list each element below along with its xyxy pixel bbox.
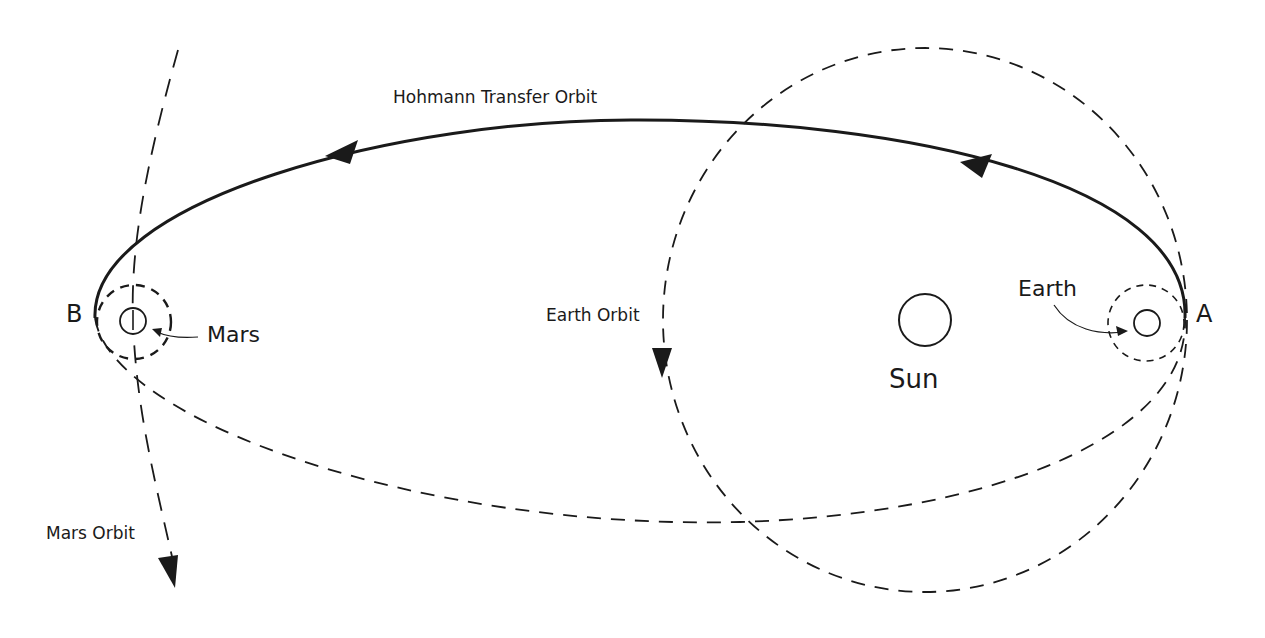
earth-pointer-arrow-icon xyxy=(1116,326,1128,336)
transfer-arrow-icon xyxy=(325,140,358,164)
earth-orbit-label: Earth Orbit xyxy=(546,305,640,325)
sun-icon xyxy=(899,294,951,346)
earth-icon xyxy=(1134,310,1160,336)
earth-pointer-arrow xyxy=(1054,305,1124,333)
earth-label: Earth xyxy=(1018,276,1077,301)
mars-pointer-arrow xyxy=(157,332,198,337)
transfer-orbit-lower-path xyxy=(95,318,1185,522)
mars-orbit-label: Mars Orbit xyxy=(46,523,135,543)
earth-orbit-arrow-icon xyxy=(652,348,672,378)
point-b-label: B xyxy=(66,300,82,328)
point-a-label: A xyxy=(1196,300,1213,328)
mars-orbit-arrow-icon xyxy=(158,555,178,588)
hohmann-diagram: Sun Earth A Mars B Hohmann Transfer Orbi… xyxy=(0,0,1265,638)
mars-pointer-arrow-icon xyxy=(152,328,162,337)
sun-label: Sun xyxy=(889,364,938,394)
mars-label: Mars xyxy=(207,322,260,347)
transfer-orbit-label: Hohmann Transfer Orbit xyxy=(393,87,598,107)
